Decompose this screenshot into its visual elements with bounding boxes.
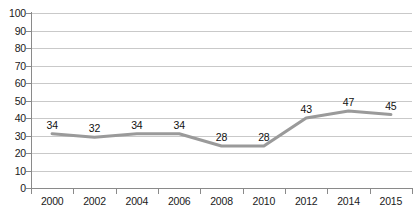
data-label-2004: 34 [131,119,142,130]
data-label-2002: 32 [89,123,100,134]
data-label-2008: 28 [216,132,227,143]
data-label-2006: 34 [174,119,185,130]
data-label-2015: 45 [385,100,396,111]
data-label-2014: 47 [343,97,354,108]
line-chart: 0102030405060708090100 20002002200420062… [0,0,419,217]
data-label-2010: 28 [258,132,269,143]
data-label-2000: 34 [47,119,58,130]
series-line-svg [0,0,419,217]
data-label-2012: 43 [301,104,312,115]
